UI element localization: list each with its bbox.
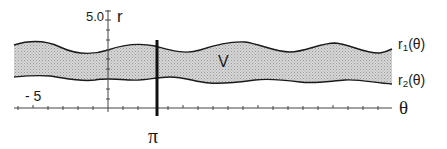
- curve-label-r1: r1(θ): [398, 37, 425, 53]
- theta-axis-label: θ: [399, 98, 408, 117]
- curve-label-r1-arg: (θ): [408, 36, 425, 52]
- diagram-canvas: [0, 0, 447, 149]
- y-tick-label-5: 5.0: [86, 10, 104, 23]
- polar-region-diagram: 5.0 r - 5 V π θ r1(θ) r2(θ): [0, 0, 447, 149]
- r-axis-label: r: [117, 8, 123, 25]
- region-v-label: V: [218, 54, 229, 70]
- pi-label: π: [148, 126, 158, 146]
- x-tick-label-neg5: - 5: [25, 89, 41, 103]
- curve-label-r2: r2(θ): [398, 73, 425, 89]
- curve-label-r2-arg: (θ): [408, 72, 425, 88]
- region-v-fill: [14, 41, 392, 84]
